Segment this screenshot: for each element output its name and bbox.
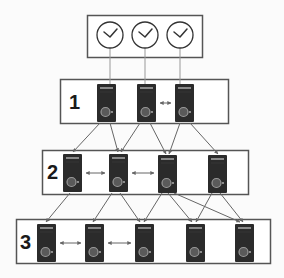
uplink-arrow (121, 123, 140, 152)
tier-label: 1 (69, 92, 80, 112)
sync-links (46, 48, 243, 243)
server-icon (63, 154, 82, 192)
uplink-arrow (190, 123, 218, 154)
server-icon (97, 84, 116, 122)
server-icon (37, 224, 56, 262)
diagram-canvas (0, 0, 284, 278)
uplink-arrow (174, 193, 240, 222)
reference-clocks (97, 22, 193, 48)
server-icon (235, 224, 254, 262)
uplink-arrow (196, 193, 212, 222)
server-icon (186, 224, 205, 262)
server-icon (158, 155, 177, 193)
clock-icon (167, 22, 193, 48)
clock-icon (97, 22, 123, 48)
ntp-stratum-diagram: 123 (0, 0, 284, 278)
server-icon (137, 84, 156, 122)
uplink-arrow (168, 193, 192, 222)
uplink-arrow (220, 193, 243, 222)
uplink-arrow (110, 123, 118, 152)
tier-label: 2 (47, 162, 58, 182)
uplink-arrow (144, 193, 162, 222)
tier-label: 3 (20, 232, 31, 252)
server-icon (109, 154, 128, 192)
clock-icon (132, 22, 158, 48)
uplink-arrow (169, 123, 180, 154)
uplink-arrow (46, 193, 70, 222)
server-icon (85, 224, 104, 262)
uplink-arrow (120, 193, 140, 222)
uplink-arrow (93, 193, 112, 222)
server-icon (208, 155, 227, 193)
uplink-arrow (73, 123, 100, 152)
server-icon (175, 84, 194, 122)
server-icon (135, 224, 154, 262)
uplink-arrow (150, 123, 166, 154)
